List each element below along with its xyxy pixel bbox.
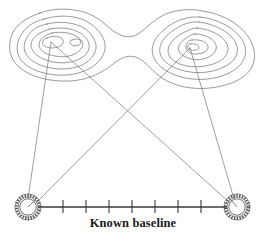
triangulation-diagram (0, 0, 266, 243)
baseline-caption: Known baseline (0, 216, 266, 231)
